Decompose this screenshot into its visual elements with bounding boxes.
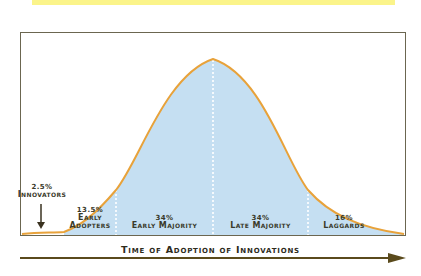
early-majority-label: 34% Early Majority [116, 214, 213, 230]
bell-curve-chart [0, 0, 421, 276]
innovators-label: 2.5% Innovators [12, 183, 72, 199]
innovators-arrow-icon [37, 204, 45, 229]
early-adopters-name-2: Adopters [62, 222, 118, 230]
early-majority-name: Early Majority [116, 222, 213, 230]
late-majority-name: Late Majority [213, 222, 308, 230]
innovators-name: Innovators [12, 191, 72, 199]
late-majority-label: 34% Late Majority [213, 214, 308, 230]
laggards-name: Laggards [308, 222, 380, 230]
early-adopters-label: 13.5% Early Adopters [62, 206, 118, 230]
x-axis-title: Time of Adoption of Innovations [0, 244, 421, 255]
laggards-label: 16% Laggards [308, 214, 380, 230]
